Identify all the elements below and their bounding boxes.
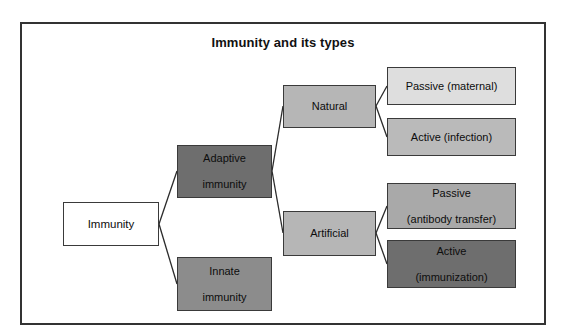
node-innate-immunity-line1: Innate: [181, 265, 268, 278]
node-innate-immunity-label: Innate immunity: [181, 265, 268, 304]
node-natural[interactable]: Natural: [283, 85, 376, 128]
node-active-immunization[interactable]: Active (immunization): [387, 240, 516, 288]
node-innate-immunity[interactable]: Innate immunity: [177, 257, 272, 311]
node-active-immunization-line1: Active: [391, 245, 512, 258]
node-passive-antibody-transfer[interactable]: Passive (antibody transfer): [387, 183, 516, 229]
node-active-immunization-line2: (immunization): [391, 271, 512, 284]
node-passive-antibody-transfer-label: Passive (antibody transfer): [391, 187, 512, 226]
node-adaptive-immunity-line1: Adaptive: [181, 152, 268, 165]
node-active-infection[interactable]: Active (infection): [387, 118, 516, 156]
node-natural-label: Natural: [287, 100, 372, 113]
node-innate-immunity-line2: immunity: [181, 291, 268, 304]
node-adaptive-immunity[interactable]: Adaptive immunity: [177, 145, 272, 198]
node-passive-antibody-transfer-line2: (antibody transfer): [391, 213, 512, 226]
node-artificial[interactable]: Artificial: [283, 211, 376, 256]
node-adaptive-immunity-line2: immunity: [181, 178, 268, 191]
node-active-immunization-label: Active (immunization): [391, 245, 512, 284]
node-artificial-label: Artificial: [287, 227, 372, 240]
node-immunity[interactable]: Immunity: [63, 202, 159, 246]
node-active-infection-label: Active (infection): [391, 131, 512, 144]
node-immunity-label: Immunity: [67, 218, 155, 231]
node-passive-antibody-transfer-line1: Passive: [391, 187, 512, 200]
node-passive-maternal[interactable]: Passive (maternal): [387, 67, 516, 105]
diagram-canvas: Immunity and its types Immunity Adaptiv: [0, 0, 569, 336]
diagram-title: Immunity and its types: [20, 35, 546, 50]
node-passive-maternal-label: Passive (maternal): [391, 80, 512, 93]
node-adaptive-immunity-label: Adaptive immunity: [181, 152, 268, 191]
